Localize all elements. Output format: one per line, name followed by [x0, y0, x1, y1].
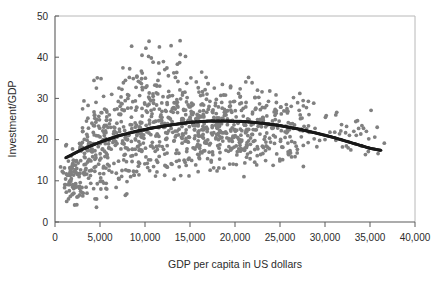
- scatter-point: [66, 159, 70, 163]
- scatter-point: [151, 60, 155, 64]
- scatter-point: [90, 150, 94, 154]
- scatter-point: [82, 99, 86, 103]
- scatter-point: [65, 143, 69, 147]
- scatter-point: [208, 141, 212, 145]
- scatter-point: [240, 129, 244, 133]
- scatter-point: [188, 105, 192, 109]
- scatter-point: [239, 133, 243, 137]
- scatter-point: [245, 130, 249, 134]
- scatter-point: [295, 151, 299, 155]
- scatter-point: [177, 159, 181, 163]
- scatter-point: [279, 139, 283, 143]
- scatter-point: [233, 134, 237, 138]
- scatter-point: [238, 95, 242, 99]
- scatter-point: [153, 149, 157, 153]
- scatter-point: [122, 153, 126, 157]
- scatter-point: [211, 150, 215, 154]
- scatter-point: [214, 112, 218, 116]
- scatter-point: [158, 140, 162, 144]
- y-tick-label: 0: [42, 217, 48, 228]
- scatter-point: [98, 152, 102, 156]
- scatter-point: [208, 168, 212, 172]
- scatter-point: [180, 141, 184, 145]
- scatter-point: [177, 133, 181, 137]
- scatter-point: [96, 145, 100, 149]
- x-tick-label: 10,000: [130, 232, 161, 243]
- scatter-point: [218, 157, 222, 161]
- scatter-point: [324, 115, 328, 119]
- scatter-point: [200, 102, 204, 106]
- scatter-point: [215, 169, 219, 173]
- scatter-point: [171, 110, 175, 114]
- scatter-point: [156, 79, 160, 83]
- scatter-point: [232, 123, 236, 127]
- scatter-point: [191, 113, 195, 117]
- scatter-point: [159, 113, 163, 117]
- scatter-point: [302, 124, 306, 128]
- scatter-point: [382, 141, 386, 145]
- scatter-point: [140, 77, 144, 81]
- scatter-point: [184, 54, 188, 58]
- scatter-point: [264, 125, 268, 129]
- fit-curve-point: [379, 149, 382, 152]
- scatter-point: [115, 107, 119, 111]
- scatter-point: [165, 151, 169, 155]
- y-tick-label: 40: [37, 52, 49, 63]
- scatter-point: [148, 118, 152, 122]
- scatter-point: [278, 157, 282, 161]
- scatter-point: [165, 103, 169, 107]
- scatter-point: [313, 126, 317, 130]
- scatter-point: [105, 118, 109, 122]
- scatter-point: [92, 110, 96, 114]
- scatter-point: [179, 174, 183, 178]
- scatter-point: [296, 101, 300, 105]
- scatter-point: [94, 100, 98, 104]
- scatter-point: [196, 170, 200, 174]
- scatter-point: [214, 101, 218, 105]
- scatter-point: [182, 158, 186, 162]
- scatter-point: [151, 94, 155, 98]
- scatter-point: [196, 123, 200, 127]
- scatter-point: [202, 149, 206, 153]
- scatter-point: [207, 150, 211, 154]
- scatter-point: [369, 108, 373, 112]
- scatter-point: [132, 173, 136, 177]
- scatter-point: [227, 137, 231, 141]
- scatter-point: [210, 126, 214, 130]
- scatter-point: [85, 191, 89, 195]
- scatter-point: [286, 111, 290, 115]
- scatter-point: [81, 129, 85, 133]
- scatter-point: [241, 114, 245, 118]
- scatter-point: [208, 99, 212, 103]
- scatter-point: [299, 135, 303, 139]
- scatter-point: [223, 107, 227, 111]
- scatter-point: [60, 170, 64, 174]
- scatter-point: [217, 105, 221, 109]
- scatter-point: [162, 147, 166, 151]
- scatter-point: [348, 133, 352, 137]
- scatter-point: [239, 149, 243, 153]
- scatter-point: [341, 145, 345, 149]
- scatter-point: [204, 75, 208, 79]
- scatter-point: [177, 151, 181, 155]
- scatter-point: [177, 165, 181, 169]
- scatter-point: [120, 102, 124, 106]
- scatter-point: [206, 138, 210, 142]
- scatter-point: [135, 134, 139, 138]
- scatter-point: [345, 125, 349, 129]
- scatter-point: [201, 90, 205, 94]
- scatter-point: [352, 129, 356, 133]
- scatter-point: [244, 80, 248, 84]
- scatter-point: [122, 158, 126, 162]
- scatter-point: [373, 135, 377, 139]
- scatter-point: [134, 85, 138, 89]
- y-axis-title: Investment/GDP: [6, 80, 18, 157]
- scatter-point: [243, 123, 247, 127]
- scatter-point: [156, 160, 160, 164]
- scatter-point: [95, 205, 99, 209]
- scatter-point: [102, 94, 106, 98]
- scatter-point: [186, 140, 190, 144]
- scatter-point: [165, 136, 169, 140]
- scatter-point: [193, 137, 197, 141]
- scatter-point: [193, 128, 197, 132]
